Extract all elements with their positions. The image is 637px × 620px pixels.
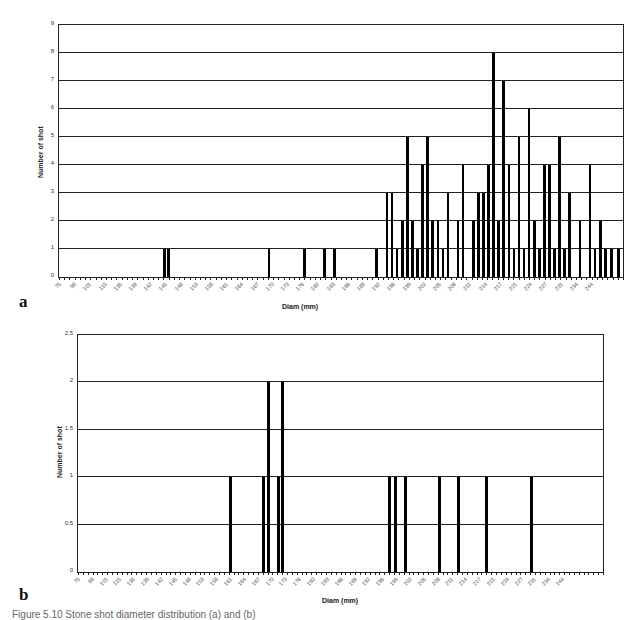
x-tick-mark [503,277,504,280]
x-tick-mark [101,277,102,280]
x-tick-mark [316,572,317,575]
histogram-bar [406,137,409,277]
histogram-bar [426,137,429,277]
x-tick-mark [398,277,399,280]
x-tick-label: 231 [551,281,564,294]
x-tick-mark [452,572,453,575]
histogram-bar [262,477,265,572]
histogram-bar [333,249,336,277]
x-tick-mark [519,277,520,280]
x-tick-mark [310,277,311,280]
x-tick-label: 227 [536,281,549,294]
x-tick-mark [360,572,361,575]
x-tick-label: 164 [232,281,245,294]
x-tick-label: 196 [384,281,397,294]
gridline [78,429,603,430]
x-tick-label: 244 [582,281,595,294]
histogram-bar [229,477,232,572]
x-tick-mark [174,277,175,280]
histogram-bar [568,193,571,277]
x-tick-mark [205,277,206,280]
gridline [59,52,623,53]
y-tick-label: 2.5 [53,330,73,336]
histogram-bar [563,249,566,277]
x-tick-mark [112,572,113,575]
x-tick-mark [122,277,123,280]
histogram-bar [594,249,597,277]
x-tick-mark [224,572,225,575]
x-tick-mark [443,572,444,575]
x-tick-mark [603,572,604,575]
x-tick-mark [501,572,502,575]
x-tick-label: 199 [399,281,412,294]
x-tick-mark [195,277,196,280]
x-tick-mark [185,572,186,575]
histogram-bar [438,477,441,572]
x-tick-mark [375,572,376,575]
x-tick-mark [362,277,363,280]
x-tick-mark [195,572,196,575]
x-tick-mark [466,277,467,280]
x-tick-mark [238,572,239,575]
histogram-bar [388,477,391,572]
x-tick-label: 145 [156,281,169,294]
histogram-bar [457,477,460,572]
x-tick-mark [574,572,575,575]
x-tick-label: 217 [490,281,503,294]
x-tick-label: 98 [65,281,78,294]
histogram-bar [497,221,500,277]
x-tick-mark [297,572,298,575]
histogram-bar [391,193,394,277]
x-tick-mark [242,277,243,280]
histogram-bar [548,165,551,277]
x-tick-mark [158,277,159,280]
gridline [59,108,623,109]
x-tick-mark [85,277,86,280]
x-tick-mark [404,572,405,575]
x-tick-mark [482,277,483,280]
x-tick-mark [315,277,316,280]
x-tick-mark [132,277,133,280]
x-tick-mark [529,277,530,280]
histogram-bar [457,221,460,277]
x-tick-mark [117,572,118,575]
histogram-bar [303,249,306,277]
histogram-bar [617,249,620,277]
histogram-bar [268,249,271,277]
x-tick-label: 153 [186,281,199,294]
histogram-bar [267,382,270,572]
x-tick-mark [299,277,300,280]
x-tick-mark [304,277,305,280]
x-tick-mark [607,277,608,280]
histogram-bar [502,81,505,277]
y-tick-label: 2 [34,216,54,222]
x-tick-mark [287,572,288,575]
x-tick-mark [467,572,468,575]
x-tick-mark [253,572,254,575]
x-tick-mark [592,277,593,280]
x-tick-mark [146,572,147,575]
y-tick-label: 9 [34,20,54,26]
x-tick-mark [234,572,235,575]
x-tick-mark [409,572,410,575]
x-tick-mark [566,277,567,280]
x-tick-mark [263,277,264,280]
chart-b-y-axis-label: Number of shot [56,426,63,478]
x-tick-mark [153,277,154,280]
x-tick-mark [272,572,273,575]
gridline [59,164,623,165]
y-tick-label: 6 [34,104,54,110]
x-tick-mark [321,572,322,575]
x-tick-mark [399,572,400,575]
x-tick-mark [221,277,222,280]
x-tick-mark [409,277,410,280]
x-tick-mark [237,277,238,280]
x-tick-mark [78,572,79,575]
x-tick-label: 115 [95,281,108,294]
histogram-bar [442,249,445,277]
x-tick-mark [273,277,274,280]
gridline [59,220,623,221]
x-tick-mark [106,277,107,280]
x-tick-label: 211 [460,281,473,294]
x-tick-mark [88,572,89,575]
